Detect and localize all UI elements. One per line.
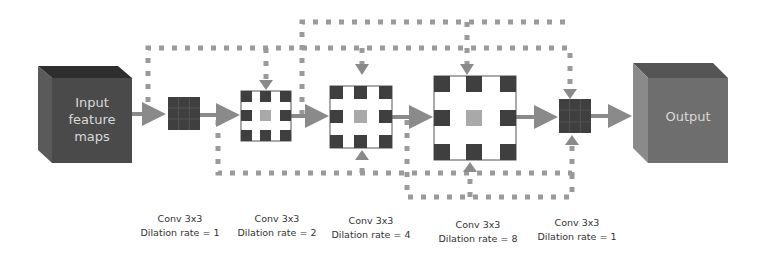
caption-layer-1: Conv 3x3 Dilation rate = 1: [125, 212, 235, 240]
caption-layer-4-name: Conv 3x3: [423, 218, 533, 232]
output-label: Output: [648, 108, 728, 125]
skip-arrowheads-top: [259, 64, 577, 99]
kernel-dilation-4: [330, 86, 392, 148]
caption-layer-1-dilation: Dilation rate = 1: [125, 226, 235, 240]
kernel-dilation-1a: [168, 97, 200, 130]
kernel-dilation-8: [434, 76, 516, 160]
caption-layer-3-dilation: Dilation rate = 4: [316, 228, 426, 242]
kernel-dilation-1b: [559, 99, 591, 133]
caption-layer-5-name: Conv 3x3: [522, 216, 632, 230]
caption-layer-4: Conv 3x3 Dilation rate = 8: [423, 218, 533, 246]
caption-layer-5-dilation: Dilation rate = 1: [522, 230, 632, 244]
caption-layer-3: Conv 3x3 Dilation rate = 4: [316, 214, 426, 242]
caption-layer-5: Conv 3x3 Dilation rate = 1: [522, 216, 632, 244]
input-label-line-2: feature: [52, 111, 132, 128]
input-label: Input feature maps: [52, 94, 132, 145]
input-label-line-1: Input: [52, 94, 132, 111]
kernel-dilation-2: [241, 91, 291, 141]
caption-layer-3-name: Conv 3x3: [316, 214, 426, 228]
caption-layer-4-dilation: Dilation rate = 8: [423, 232, 533, 246]
input-label-line-3: maps: [52, 128, 132, 145]
caption-layer-1-name: Conv 3x3: [125, 212, 235, 226]
